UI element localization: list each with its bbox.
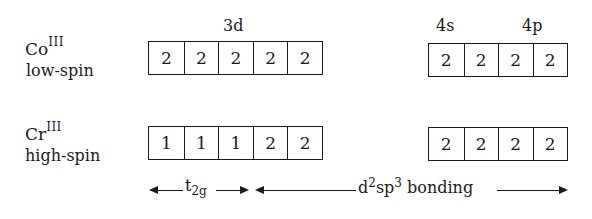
orbital-cell: 2 xyxy=(287,42,322,74)
orbital-cell: 2 xyxy=(533,128,568,160)
label-4s: 4s xyxy=(436,18,454,34)
spin-label-cr: high-spin xyxy=(25,148,100,164)
orbital-cell: 2 xyxy=(218,42,253,74)
orbital-cell: 2 xyxy=(498,128,533,160)
arrow-right-icon xyxy=(559,186,568,194)
spin-label-co: low-spin xyxy=(26,63,94,79)
cr-3d-orbitals: 1 1 1 2 2 xyxy=(148,126,323,160)
arrow-line xyxy=(155,190,183,191)
orbital-cell: 2 xyxy=(253,127,288,159)
orbital-cell: 2 xyxy=(253,42,288,74)
label-3d: 3d xyxy=(223,18,243,34)
ion-symbol: Co xyxy=(25,39,48,59)
ion-label-cr: CrIII xyxy=(25,123,62,143)
orbital-cell: 2 xyxy=(464,44,499,76)
orbital-cell: 2 xyxy=(149,42,184,74)
arrow-line xyxy=(216,190,242,191)
cr-4s4p-orbitals: 2 2 2 2 xyxy=(428,127,568,161)
orbital-cell: 1 xyxy=(149,127,184,159)
arrow-line xyxy=(497,190,561,191)
orbital-cell: 2 xyxy=(184,42,219,74)
orbital-cell: 2 xyxy=(498,44,533,76)
arrow-right-icon xyxy=(240,186,249,194)
oxidation-state: III xyxy=(46,120,62,134)
arrow-line xyxy=(261,190,356,191)
co-3d-orbitals: 2 2 2 2 2 xyxy=(148,41,323,75)
orbital-cell: 1 xyxy=(218,127,253,159)
ion-symbol: Cr xyxy=(25,124,46,144)
orbital-cell: 2 xyxy=(287,127,322,159)
co-4s4p-orbitals: 2 2 2 2 xyxy=(428,43,568,77)
label-4p: 4p xyxy=(522,18,542,34)
oxidation-state: III xyxy=(48,35,64,49)
d2sp3-label: d2sp3 bonding xyxy=(358,180,473,196)
orbital-cell: 1 xyxy=(184,127,219,159)
orbital-cell: 2 xyxy=(429,44,464,76)
ion-label-co: CoIII xyxy=(25,38,64,58)
t2g-label: t2g xyxy=(185,178,207,194)
orbital-cell: 2 xyxy=(464,128,499,160)
orbital-cell: 2 xyxy=(429,128,464,160)
orbital-cell: 2 xyxy=(533,44,568,76)
